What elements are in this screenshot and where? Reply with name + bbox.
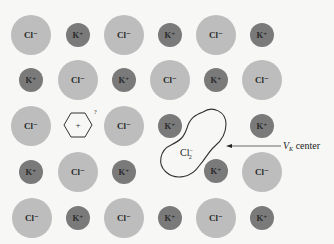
svg-text:K⁺: K⁺: [210, 166, 221, 176]
svg-text:K⁺: K⁺: [256, 30, 267, 40]
svg-text:Cl⁻: Cl⁻: [25, 213, 39, 223]
svg-text:K⁺: K⁺: [118, 75, 129, 85]
lattice-diagram: Cl⁻ K⁺ Cl⁻ K⁺ Cl⁻ K⁺ K⁺ Cl⁻ K⁺ Cl⁻ K⁺ Cl…: [0, 0, 334, 244]
k-ion: K⁺: [158, 23, 182, 47]
cl-ion: Cl⁻: [11, 15, 51, 55]
svg-text:?: ?: [94, 109, 97, 115]
svg-text:Cl⁻: Cl⁻: [117, 213, 131, 223]
svg-text:K⁺: K⁺: [25, 167, 36, 177]
cl-ion: Cl⁻: [242, 152, 282, 192]
svg-text:K⁺: K⁺: [256, 213, 267, 223]
svg-text:Cl⁻: Cl⁻: [117, 30, 131, 40]
cl-ion: Cl⁻: [196, 15, 236, 55]
svg-text:+: +: [75, 120, 80, 130]
svg-text:Cl⁻: Cl⁻: [255, 75, 269, 85]
cl-ion: Cl⁻: [58, 152, 98, 192]
svg-text:Cl⁻: Cl⁻: [209, 213, 223, 223]
cl-ion: Cl⁻: [196, 198, 236, 238]
svg-text:Cl⁻: Cl⁻: [71, 167, 85, 177]
k-ion: K⁺: [158, 206, 182, 230]
svg-text:K⁺: K⁺: [72, 213, 83, 223]
cl-ion: Cl⁻: [242, 60, 282, 100]
cl-ion: Cl⁻: [12, 198, 52, 238]
cl-ion: Cl⁻: [104, 15, 144, 55]
svg-text:K⁺: K⁺: [72, 30, 83, 40]
svg-text:K⁺: K⁺: [118, 167, 129, 177]
vk-center-label: VK center: [283, 140, 321, 152]
svg-text:K⁺: K⁺: [164, 30, 175, 40]
k-ion: K⁺: [158, 114, 182, 138]
k-ion: K⁺: [112, 68, 136, 92]
svg-text:Cl⁻: Cl⁻: [71, 75, 85, 85]
k-ion: K⁺: [19, 160, 43, 184]
k-ion: K⁺: [204, 68, 228, 92]
cl-ion: Cl⁻: [150, 60, 190, 100]
svg-text:K⁺: K⁺: [164, 121, 175, 131]
svg-text:Cl⁻: Cl⁻: [209, 30, 223, 40]
k-ion: K⁺: [250, 114, 274, 138]
cl-ion: Cl⁻: [11, 106, 51, 146]
k-ion: K⁺: [204, 159, 228, 183]
svg-text:Cl⁻: Cl⁻: [24, 30, 38, 40]
svg-text:Cl⁻: Cl⁻: [117, 121, 131, 131]
cl-ion: Cl⁻: [104, 198, 144, 238]
k-ion: K⁺: [250, 23, 274, 47]
k-ion: K⁺: [66, 23, 90, 47]
svg-text:Cl⁻: Cl⁻: [163, 75, 177, 85]
k-ion: K⁺: [66, 206, 90, 230]
cl-ion: Cl⁻: [58, 60, 98, 100]
k-ion: K⁺: [250, 206, 274, 230]
svg-text:Cl⁻: Cl⁻: [24, 121, 38, 131]
svg-text:K⁺: K⁺: [164, 213, 175, 223]
cl-ion: Cl⁻: [104, 106, 144, 146]
svg-text:K⁺: K⁺: [256, 121, 267, 131]
svg-text:K⁺: K⁺: [210, 75, 221, 85]
svg-text:K⁺: K⁺: [25, 75, 36, 85]
k-ion: K⁺: [19, 68, 43, 92]
k-ion: K⁺: [112, 160, 136, 184]
svg-text:Cl⁻: Cl⁻: [255, 167, 269, 177]
